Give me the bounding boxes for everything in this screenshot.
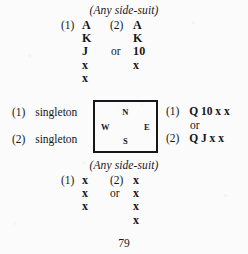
- compass-east-label: E: [144, 122, 150, 131]
- card-rank: x: [133, 214, 139, 227]
- east-or-separator: or: [190, 119, 200, 131]
- east-option-1-text: Q 10 x x: [189, 105, 230, 117]
- bottom-option-1-marker: (1): [61, 174, 74, 186]
- top-option-2-cards: A K 10 x: [133, 19, 145, 72]
- bottom-option-2-cards: x x x x: [133, 174, 139, 227]
- bottom-or-separator: or: [110, 187, 120, 199]
- west-option-1: (1) singleton: [12, 106, 77, 118]
- compass-box: N W E S: [93, 100, 158, 153]
- east-option-2: (2) Q J x x: [166, 132, 224, 144]
- bottom-option-2-marker: (2): [110, 174, 123, 186]
- top-side-suit-heading: (Any side-suit): [64, 4, 184, 16]
- bridge-deal-diagram-page: (Any side-suit) (1) A K J x x or (2) A K…: [0, 0, 248, 254]
- compass-north-label: N: [122, 108, 128, 117]
- bottom-option-1-cards: x x x: [82, 174, 88, 214]
- card-rank: x: [82, 72, 88, 85]
- east-option-2-marker: (2): [166, 132, 179, 144]
- west-option-2: (2) singleton: [12, 133, 77, 145]
- top-option-2-marker: (2): [110, 19, 123, 31]
- top-option-1-cards: A K J x x: [82, 19, 92, 85]
- west-option-2-text: singleton: [35, 133, 77, 145]
- card-rank: x: [82, 200, 88, 213]
- card-rank: 10: [133, 45, 145, 58]
- page-number: 79: [0, 237, 248, 249]
- east-option-2-text: Q J x x: [189, 132, 224, 144]
- top-option-1-marker: (1): [61, 19, 74, 31]
- top-or-separator: or: [111, 45, 121, 57]
- card-rank: x: [133, 59, 139, 72]
- card-rank: x: [133, 200, 139, 213]
- west-option-2-marker: (2): [12, 133, 25, 145]
- compass-south-label: S: [123, 137, 128, 146]
- card-rank: J: [82, 45, 88, 58]
- card-rank: x: [82, 59, 88, 72]
- bottom-side-suit-heading: (Any side-suit): [64, 159, 184, 171]
- west-option-1-marker: (1): [12, 106, 25, 118]
- east-option-1-marker: (1): [166, 105, 179, 117]
- east-option-1: (1) Q 10 x x: [166, 105, 230, 117]
- compass-west-label: W: [101, 122, 110, 131]
- west-option-1-text: singleton: [35, 106, 77, 118]
